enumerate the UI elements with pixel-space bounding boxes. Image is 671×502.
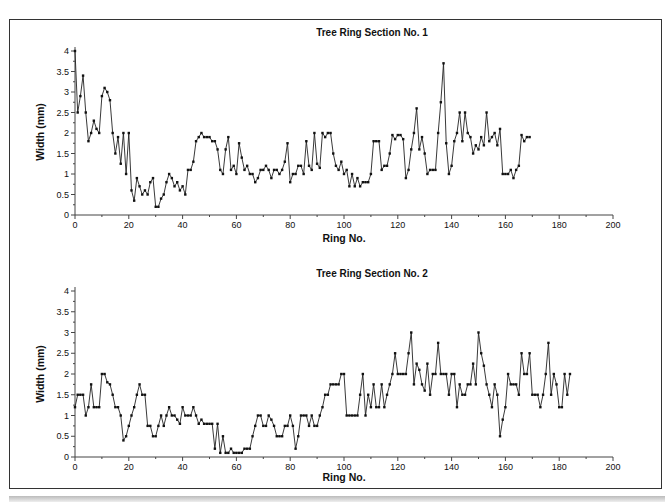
data-point [424, 389, 426, 391]
data-point [375, 406, 377, 408]
data-point [410, 331, 412, 333]
data-point [227, 136, 229, 138]
data-point [251, 435, 253, 437]
data-point [450, 165, 452, 167]
data-point [241, 156, 243, 158]
data-point [198, 136, 200, 138]
data-point [442, 373, 444, 375]
y-tick-label: 1 [64, 411, 69, 421]
data-point [319, 167, 321, 169]
data-point [276, 435, 278, 437]
data-point [200, 418, 202, 420]
data-point [499, 128, 501, 130]
data-point [106, 91, 108, 93]
data-point [534, 394, 536, 396]
data-point [335, 165, 337, 167]
data-point [472, 152, 474, 154]
data-point [448, 173, 450, 175]
data-point [329, 383, 331, 385]
data-point [308, 165, 310, 167]
data-point [329, 132, 331, 134]
data-point [155, 435, 157, 437]
data-point [224, 148, 226, 150]
data-point [219, 452, 221, 454]
data-point [171, 177, 173, 179]
data-point [259, 169, 261, 171]
data-point [345, 169, 347, 171]
y-axis-label: Width (mm) [34, 345, 46, 403]
x-tick-label: 140 [444, 462, 459, 472]
data-point [311, 169, 313, 171]
data-point [402, 373, 404, 375]
data-point [496, 394, 498, 396]
data-point [230, 169, 232, 171]
x-tick-label: 100 [336, 462, 351, 472]
y-tick-label: 0.5 [56, 431, 69, 441]
data-point [233, 165, 235, 167]
data-point [195, 140, 197, 142]
data-point [214, 448, 216, 450]
data-point [343, 173, 345, 175]
data-point [79, 394, 81, 396]
data-point [243, 448, 245, 450]
data-point [281, 435, 283, 437]
y-tick-label: 4 [64, 46, 69, 56]
data-point [359, 394, 361, 396]
data-point [528, 352, 530, 354]
data-point [415, 107, 417, 109]
data-point [130, 189, 132, 191]
data-point [375, 140, 377, 142]
data-point [286, 142, 288, 144]
data-point [418, 369, 420, 371]
data-point [138, 185, 140, 187]
data-point [520, 134, 522, 136]
y-tick-label: 0.5 [56, 190, 69, 200]
data-point [367, 181, 369, 183]
data-point [270, 418, 272, 420]
data-point [488, 394, 490, 396]
data-point [364, 181, 366, 183]
data-point [485, 111, 487, 113]
data-point [386, 165, 388, 167]
x-tick-label: 0 [72, 462, 77, 472]
data-point [111, 132, 113, 134]
data-point [198, 423, 200, 425]
data-point [437, 342, 439, 344]
data-point [286, 425, 288, 427]
data-point [485, 383, 487, 385]
data-point [136, 177, 138, 179]
data-point [397, 373, 399, 375]
data-point [117, 406, 119, 408]
data-point [399, 373, 401, 375]
data-point [216, 423, 218, 425]
y-tick-label: 3 [64, 328, 69, 338]
data-point [98, 406, 100, 408]
data-point [128, 132, 130, 134]
data-point [475, 144, 477, 146]
data-point [324, 394, 326, 396]
data-point [187, 169, 189, 171]
data-point [144, 394, 146, 396]
data-point [281, 169, 283, 171]
data-point [539, 406, 541, 408]
data-point [504, 173, 506, 175]
data-point [424, 152, 426, 154]
x-tick-label: 180 [552, 462, 567, 472]
data-point [284, 161, 286, 163]
data-point [120, 414, 122, 416]
data-point [95, 128, 97, 130]
data-point [149, 181, 151, 183]
data-point [76, 111, 78, 113]
data-point [458, 383, 460, 385]
data-point [141, 193, 143, 195]
data-point [354, 414, 356, 416]
data-point [456, 406, 458, 408]
data-point [144, 189, 146, 191]
data-point [297, 435, 299, 437]
data-point [117, 136, 119, 138]
data-point [176, 418, 178, 420]
data-point [442, 62, 444, 64]
data-point [165, 181, 167, 183]
data-point [292, 173, 294, 175]
data-point [332, 152, 334, 154]
